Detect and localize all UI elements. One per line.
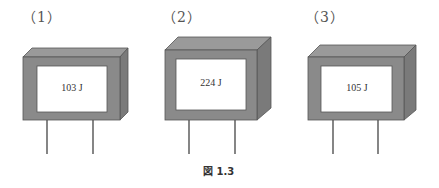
component-2-code: 224 J	[181, 77, 241, 88]
figure-caption: 図 1.3	[203, 163, 234, 178]
capacitor-2	[165, 37, 271, 154]
component-1-code: 103 J	[42, 82, 102, 93]
figure-caption-number: 1.3	[216, 166, 234, 177]
figure-caption-prefix: 図	[203, 166, 213, 177]
capacitor-diagram	[0, 0, 439, 188]
capacitor-3	[308, 45, 416, 154]
capacitor-1	[23, 48, 128, 154]
component-3-code: 105 J	[327, 82, 387, 93]
